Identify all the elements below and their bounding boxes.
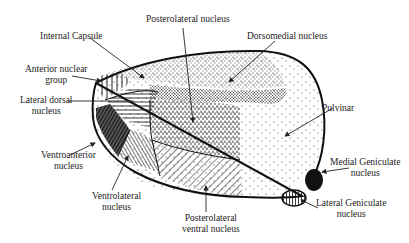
label-internal-capsule: Internal Capsule (40, 31, 103, 42)
region-lateral-geniculate (282, 190, 306, 206)
label-anterior-nuclear-group: Anterior nuclear group (25, 64, 88, 85)
label-ventroanterior-nucleus: Ventroanterior nucleus (41, 150, 96, 171)
region-medial-geniculate (305, 169, 323, 191)
thalamus-diagram: Internal Capsule Anterior nuclear group … (0, 0, 409, 243)
label-lateral-geniculate-nucleus: Lateral Geniculate nucleus (316, 198, 386, 219)
label-ventrolateral-nucleus: Ventrolateral nucleus (92, 191, 141, 212)
label-pulvinar: Pulvinar (322, 103, 354, 114)
label-posterolateral-ventral-nucleus: Posterolateral ventral nucleus (182, 213, 240, 234)
label-medial-geniculate-nucleus: Medial Geniculate nucleus (330, 157, 400, 178)
label-dorsomedial-nucleus: Dorsomedial nucleus (247, 31, 327, 42)
label-lateral-dorsal-nucleus: Lateral dorsal nucleus (20, 95, 73, 116)
label-posterolateral-nucleus: Posterolateral nucleus (146, 14, 230, 25)
